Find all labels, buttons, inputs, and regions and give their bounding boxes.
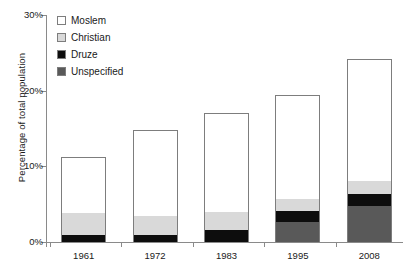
y-axis-tick-label: 10% — [24, 160, 43, 171]
legend-swatch-icon — [57, 16, 66, 25]
legend-item-christian[interactable]: Christian — [57, 29, 123, 46]
legend-item-label: Moslem — [71, 15, 106, 26]
bar-segment-christian — [275, 199, 320, 211]
x-axis-tick-label: 1995 — [287, 250, 308, 261]
y-axis-tick-label: 0% — [29, 236, 43, 247]
bar-1995[interactable] — [275, 95, 320, 242]
x-axis-tick — [264, 242, 265, 247]
legend-item-label: Unspecified — [71, 66, 123, 77]
bar-segment-unspecified — [347, 206, 392, 242]
legend-swatch-icon — [57, 50, 66, 59]
x-axis-tick — [121, 242, 122, 247]
legend-item-label: Druze — [71, 49, 98, 60]
bar-1972[interactable] — [133, 130, 178, 242]
bar-segment-christian — [133, 216, 178, 236]
bar-segment-druze — [275, 211, 320, 222]
legend-swatch-icon — [57, 33, 66, 42]
x-axis-tick-label: 1961 — [73, 250, 94, 261]
bar-segment-moslem — [347, 59, 392, 182]
x-axis-tick-label: 1972 — [145, 250, 166, 261]
bar-segment-druze — [204, 230, 249, 242]
bar-segment-moslem — [275, 95, 320, 199]
bar-2008[interactable] — [347, 59, 392, 242]
bar-segment-druze — [133, 235, 178, 242]
x-axis-tick-label: 1983 — [216, 250, 237, 261]
y-axis-tick-label: 30% — [24, 9, 43, 20]
bar-segment-moslem — [204, 113, 249, 212]
x-axis-tick — [50, 242, 51, 247]
legend-item-moslem[interactable]: Moslem — [57, 12, 123, 29]
legend-swatch-icon — [57, 67, 66, 76]
x-axis-tick — [193, 242, 194, 247]
y-axis-line — [46, 15, 47, 247]
bar-segment-moslem — [61, 157, 106, 213]
bar-segment-moslem — [133, 130, 178, 216]
legend-item-unspecified[interactable]: Unspecified — [57, 63, 123, 80]
bar-segment-christian — [347, 181, 392, 194]
x-axis-tick — [336, 242, 337, 247]
x-axis-line — [46, 242, 403, 243]
legend-item-druze[interactable]: Druze — [57, 46, 123, 63]
bar-segment-druze — [61, 235, 106, 242]
bar-segment-christian — [61, 213, 106, 235]
bar-segment-druze — [347, 194, 392, 206]
y-axis-title: Percentage of total population — [16, 38, 27, 198]
stacked-bar-chart: Percentage of total population 0%10%20%3… — [0, 0, 415, 268]
legend-item-label: Christian — [71, 32, 110, 43]
bar-segment-christian — [204, 212, 249, 230]
bar-1983[interactable] — [204, 113, 249, 242]
bar-1961[interactable] — [61, 157, 106, 242]
y-axis-tick-label: 20% — [24, 85, 43, 96]
chart-legend: MoslemChristianDruzeUnspecified — [57, 12, 123, 80]
x-axis-tick-label: 2008 — [359, 250, 380, 261]
bar-segment-unspecified — [275, 222, 320, 242]
